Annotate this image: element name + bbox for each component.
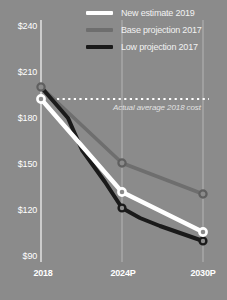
data-point-base-projection-2018 (37, 83, 44, 90)
data-point-low-projection-2030p (200, 238, 207, 245)
legend-item-low-projection-2017[interactable]: Low projection 2017 (86, 42, 202, 52)
legend-swatch-icon (86, 28, 113, 32)
legend-label: Low projection 2017 (121, 42, 198, 52)
legend-label: New estimate 2019 (121, 8, 195, 18)
legend-label: Base projection 2017 (121, 25, 202, 35)
data-point-new-estimate-2030p (199, 228, 206, 235)
data-point-new-estimate-2024p (118, 188, 125, 195)
chart-container: $240 $210 $180 $150 $120 $90 2018 2024P … (0, 0, 227, 300)
data-point-base-projection-2030p (199, 190, 206, 197)
chart-legend: New estimate 2019 Base projection 2017 L… (86, 8, 202, 52)
reference-line-annotation: Actual average 2018 cost (113, 103, 201, 112)
legend-item-base-projection-2017[interactable]: Base projection 2017 (86, 25, 202, 35)
data-point-new-estimate-2018 (37, 95, 44, 102)
legend-swatch-icon (86, 45, 113, 49)
data-point-base-projection-2024p (118, 159, 125, 166)
data-point-low-projection-2024p (119, 205, 126, 212)
legend-swatch-icon (86, 11, 113, 15)
legend-item-new-estimate-2019[interactable]: New estimate 2019 (86, 8, 202, 18)
